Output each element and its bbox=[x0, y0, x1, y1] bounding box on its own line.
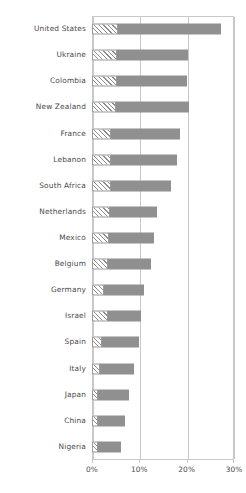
x-tick-label: 0% bbox=[86, 465, 98, 474]
horizontal-bar-chart: United StatesUkraineColombiaNew ZealandF… bbox=[0, 0, 246, 493]
category-label: Israel bbox=[0, 312, 86, 320]
category-label: Ukraine bbox=[0, 51, 86, 59]
category-label: Germany bbox=[0, 286, 86, 294]
x-tick-label: 20% bbox=[178, 465, 195, 474]
category-label: United States bbox=[0, 25, 86, 33]
category-axis-labels: United StatesUkraineColombiaNew ZealandF… bbox=[0, 16, 86, 460]
category-label: Lebanon bbox=[0, 156, 86, 164]
plot-area bbox=[92, 16, 234, 460]
category-label: Belgium bbox=[0, 260, 86, 268]
category-label: New Zealand bbox=[0, 103, 86, 111]
x-tick-mark bbox=[233, 460, 234, 463]
x-tick-mark bbox=[92, 460, 93, 463]
gridline-20pct bbox=[188, 17, 189, 459]
x-tick-mark bbox=[139, 460, 140, 463]
category-label: Italy bbox=[0, 365, 86, 373]
category-label: Japan bbox=[0, 391, 86, 399]
category-label: Spain bbox=[0, 338, 86, 346]
category-label: Colombia bbox=[0, 77, 86, 85]
category-label: France bbox=[0, 130, 86, 138]
x-tick-label: 10% bbox=[131, 465, 148, 474]
value-axis: 0%10%20%30% bbox=[92, 460, 234, 482]
category-label: China bbox=[0, 417, 86, 425]
x-tick-label: 30% bbox=[226, 465, 243, 474]
category-label: Mexico bbox=[0, 234, 86, 242]
gridline-0pct bbox=[93, 17, 94, 459]
x-tick-mark bbox=[187, 460, 188, 463]
category-label: South Africa bbox=[0, 182, 86, 190]
category-label: Nigeria bbox=[0, 443, 86, 451]
gridline-10pct bbox=[140, 17, 141, 459]
gridline-30pct bbox=[234, 17, 235, 459]
category-label: Netherlands bbox=[0, 208, 86, 216]
